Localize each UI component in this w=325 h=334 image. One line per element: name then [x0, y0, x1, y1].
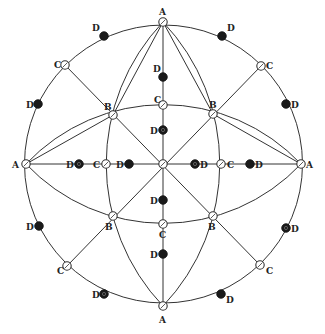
point-B-ul: [109, 111, 117, 119]
point-D-inner-top-2: [159, 126, 168, 135]
point-label-d: D: [150, 250, 158, 260]
filled-point-icon: [217, 290, 226, 299]
diagram-canvas: AAAABBBBCCCCCCCCDDDDDDDDDDDDDDDD: [0, 0, 325, 334]
filled-point-icon: [246, 160, 255, 169]
point-D-inner-right-1: [191, 160, 200, 169]
point-label-d: D: [200, 160, 208, 170]
point-D-inner-left-2: [125, 160, 134, 169]
filled-point-icon: [191, 160, 200, 169]
point-label-a: A: [305, 160, 314, 170]
point-D-inner-bottom-1: [159, 196, 168, 205]
filled-point-icon: [100, 290, 109, 299]
point-label-c: C: [227, 160, 234, 170]
point-label-a: A: [11, 160, 20, 170]
point-label-d: D: [150, 196, 158, 206]
point-label-c: C: [57, 266, 64, 276]
point-label-d: D: [92, 290, 100, 300]
point-D-outer-8: [217, 290, 226, 299]
filled-point-icon: [218, 32, 227, 41]
great-circle-diagram: AAAABBBBCCCCCCCCDDDDDDDDDDDDDDDD: [0, 0, 325, 334]
filled-point-icon: [100, 32, 109, 41]
point-C-ur: [257, 62, 265, 70]
point-label-d: D: [255, 160, 263, 170]
point-D-outer-5: [35, 222, 44, 231]
filled-point-icon: [34, 100, 43, 109]
point-D-outer-7: [100, 290, 109, 299]
point-D-outer-2: [218, 32, 227, 41]
point-B-ll: [109, 212, 117, 220]
point-label-d: D: [153, 64, 161, 74]
point-D-outer-3: [34, 100, 43, 109]
point-A-left: [22, 160, 30, 168]
point-C-ul: [61, 61, 69, 69]
point-label-d: D: [66, 160, 74, 170]
point-C-bottom: [159, 220, 167, 228]
point-A-top: [159, 18, 167, 26]
point-B-ur: [209, 110, 217, 118]
filled-point-icon: [282, 100, 291, 109]
point-label-d: D: [226, 295, 234, 305]
point-label-c: C: [266, 266, 273, 276]
point-label-d: D: [291, 100, 299, 110]
filled-point-icon: [159, 250, 168, 259]
point-label-b: B: [208, 222, 216, 232]
point-label-c: C: [154, 95, 161, 105]
point-A-bottom: [159, 302, 167, 310]
point-label-d: D: [92, 23, 100, 33]
point-A-right: [297, 160, 305, 168]
point-label-b: B: [105, 222, 113, 232]
point-label-a: A: [158, 7, 167, 17]
point-D-outer-4: [282, 100, 291, 109]
point-C-left: [102, 160, 110, 168]
point-label-c: C: [93, 160, 100, 170]
point-label-c: C: [266, 61, 273, 71]
seg-a-right-b-ur: [213, 114, 301, 164]
point-D-outer-1: [100, 32, 109, 41]
point-label-b: B: [209, 100, 217, 110]
seg-a-top-b-ur: [163, 22, 213, 114]
filled-point-icon: [35, 222, 44, 231]
point-label-d: D: [227, 23, 235, 33]
point-D-inner-left-1: [75, 160, 84, 169]
point-B-lr: [209, 212, 217, 220]
filled-point-icon: [75, 160, 84, 169]
point-label-a: A: [158, 315, 167, 325]
filled-point-icon: [282, 224, 291, 233]
point-label-d: D: [150, 126, 158, 136]
point-label-b: B: [104, 102, 112, 112]
filled-point-icon: [125, 160, 134, 169]
point-D-outer-6: [282, 224, 291, 233]
point-D-inner-bottom-2: [159, 250, 168, 259]
point-label-c: C: [54, 60, 61, 70]
filled-point-icon: [159, 196, 168, 205]
point-label-d: D: [116, 160, 124, 170]
point-label-c: C: [159, 230, 166, 240]
point-C-lr: [256, 261, 264, 269]
point-D-inner-right-2: [246, 160, 255, 169]
point-label-d: D: [291, 224, 299, 234]
point-label-d: D: [26, 100, 34, 110]
filled-point-icon: [159, 126, 168, 135]
point-C-right: [217, 160, 225, 168]
point-A-center: [159, 160, 167, 168]
seg-a-left-b-ul: [26, 115, 113, 164]
point-label-d: D: [26, 222, 34, 232]
